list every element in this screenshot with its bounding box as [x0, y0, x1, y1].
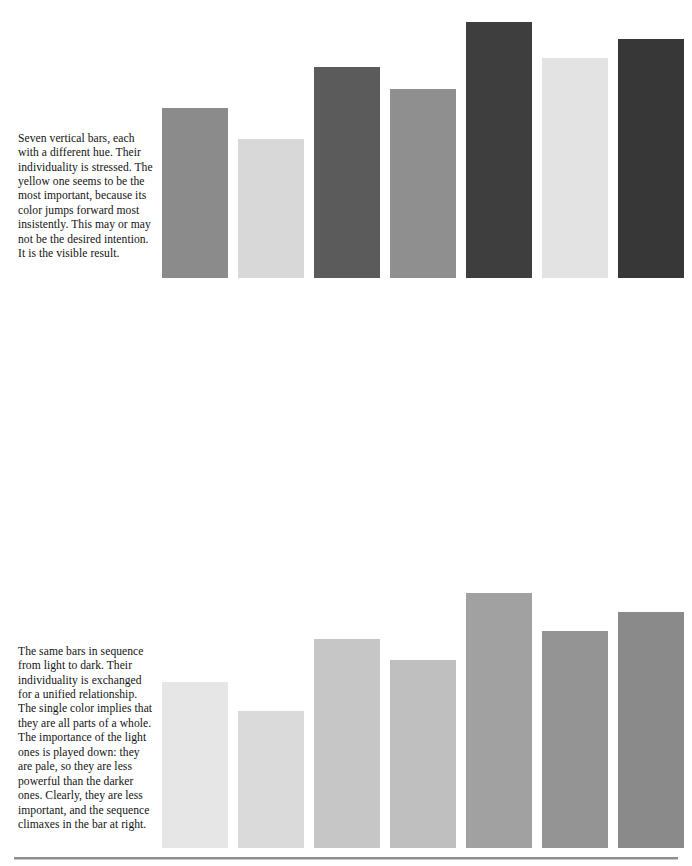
figure-row-light-to-dark: The same bars in sequence from light to …	[0, 290, 692, 570]
bar-6	[542, 58, 608, 278]
bar-3	[314, 67, 380, 278]
bar-5	[466, 22, 532, 278]
footer-divider-rule	[14, 857, 678, 859]
figure-row-dark-to-light: The monochromatic arrangement is shown i…	[0, 570, 692, 845]
figure-row-different-hues: Seven vertical bars, each with a differe…	[0, 0, 692, 290]
bar-2	[238, 139, 304, 278]
caption-different-hues: Seven vertical bars, each with a differe…	[18, 132, 156, 262]
bar-7	[618, 39, 684, 278]
page-canvas: Seven vertical bars, each with a differe…	[0, 0, 692, 866]
bar-4	[390, 89, 456, 278]
bar-1	[162, 108, 228, 278]
bar-chart-different-hues	[162, 0, 684, 278]
